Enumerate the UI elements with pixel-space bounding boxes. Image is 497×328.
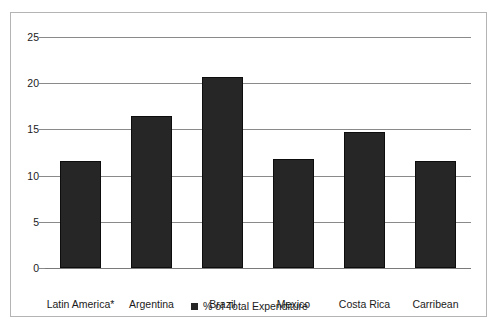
legend-label: % of Total Expenditure	[203, 301, 308, 312]
chart-frame: 2520151050 Latin America*ArgentinaBrazil…	[10, 12, 487, 317]
y-tick-mark	[39, 83, 45, 84]
gridline	[45, 83, 471, 84]
bar[interactable]	[202, 77, 243, 268]
gridline	[45, 268, 471, 269]
y-tick-mark	[39, 176, 45, 177]
y-tick-mark	[39, 268, 45, 269]
legend: % of Total Expenditure	[11, 301, 488, 312]
bar[interactable]	[273, 159, 314, 268]
y-axis: 2520151050	[11, 37, 39, 268]
y-tick-label: 25	[27, 32, 39, 43]
plot-area: Latin America*ArgentinaBrazilMexicoCosta…	[45, 37, 471, 268]
y-tick-mark	[39, 37, 45, 38]
gridline	[45, 222, 471, 223]
y-tick-label: 10	[27, 171, 39, 182]
y-tick-label: 15	[27, 124, 39, 135]
legend-swatch-icon	[191, 303, 198, 310]
bar[interactable]	[415, 161, 456, 268]
gridline	[45, 176, 471, 177]
y-tick-label: 20	[27, 78, 39, 89]
y-tick-mark	[39, 129, 45, 130]
bar[interactable]	[344, 132, 385, 268]
gridline	[45, 129, 471, 130]
bar[interactable]	[60, 161, 101, 268]
gridline	[45, 37, 471, 38]
y-tick-mark	[39, 222, 45, 223]
bar[interactable]	[131, 116, 172, 268]
chart-page: 2520151050 Latin America*ArgentinaBrazil…	[0, 0, 497, 328]
